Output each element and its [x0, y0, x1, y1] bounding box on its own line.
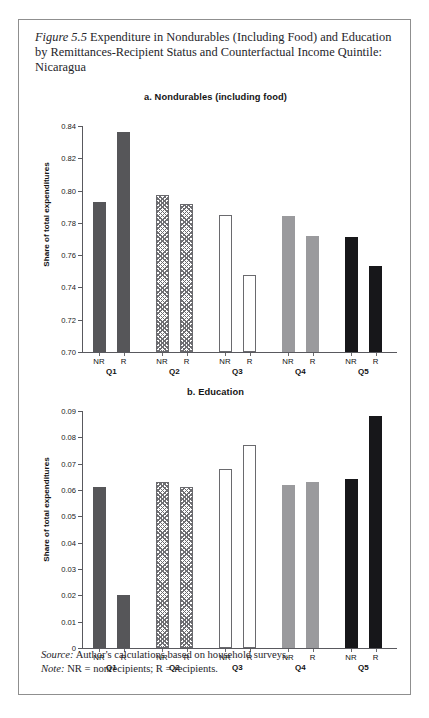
bar-Q4-R-a	[306, 236, 319, 352]
y-axis-tick-label-b: 0.02	[61, 591, 76, 600]
figure-frame: Figure 5.5 Expenditure in Nondurables (I…	[18, 19, 411, 695]
x-axis-tick-a	[124, 353, 125, 356]
source-line: Source: Author's calculations based on h…	[41, 648, 391, 662]
bar-Q2-R-a	[180, 204, 193, 353]
bar-Q1-NR-a	[93, 202, 106, 352]
y-axis-tick-a	[78, 352, 82, 353]
x-axis-tick-a	[351, 353, 352, 356]
note-label: Note:	[41, 663, 65, 674]
y-axis-tick-label-a: 0.76	[61, 251, 76, 260]
source-text: Author's calculations based on household…	[74, 649, 289, 660]
y-axis-tick-a	[78, 223, 82, 224]
y-axis-tick-label-b: 0.03	[61, 565, 76, 574]
note-line: Note: NR = nonrecipients; R = recipients…	[41, 662, 391, 676]
x-axis-tick-a	[288, 353, 289, 356]
group-label-Q4-a: Q4	[295, 367, 306, 376]
x-axis-label-a: NR	[219, 357, 230, 366]
x-axis-label-a: NR	[156, 357, 167, 366]
y-axis-title-a: Share of total expenditures	[42, 150, 51, 280]
y-axis-tick-b	[78, 411, 82, 412]
y-axis-tick-b	[78, 569, 82, 570]
figure-footnotes: Source: Author's calculations based on h…	[41, 648, 391, 676]
y-axis-tick-label-b: 0.08	[61, 433, 76, 442]
x-axis-label-a: R	[184, 357, 190, 366]
y-axis-tick-b	[78, 622, 82, 623]
bar-Q1-R-b	[117, 595, 130, 648]
x-axis-label-a: R	[247, 357, 253, 366]
plot-area-b: 00.010.020.030.040.050.060.070.080.09NRR…	[82, 411, 397, 649]
y-axis-tick-a	[78, 191, 82, 192]
y-axis-tick-a	[78, 287, 82, 288]
chart-panel-nondurables: a. Nondurables (including food) Share of…	[19, 92, 412, 382]
bar-Q4-R-b	[306, 482, 319, 648]
x-axis-label-a: NR	[345, 357, 356, 366]
x-axis-label-a: R	[310, 357, 316, 366]
bar-Q3-R-a	[243, 275, 256, 352]
x-axis-tick-a	[250, 353, 251, 356]
x-axis-label-a: NR	[282, 357, 293, 366]
bar-Q5-NR-b	[345, 479, 358, 648]
x-axis-tick-a	[162, 353, 163, 356]
chart-title-a: a. Nondurables (including food)	[19, 92, 412, 102]
y-axis-tick-label-b: 0.06	[61, 486, 76, 495]
figure-page: Figure 5.5 Expenditure in Nondurables (I…	[0, 0, 429, 718]
y-axis-tick-label-a: 0.84	[61, 122, 76, 131]
x-axis-label-a: R	[121, 357, 127, 366]
bar-Q5-R-b	[369, 416, 382, 648]
figure-caption: Figure 5.5 Expenditure in Nondurables (I…	[35, 30, 397, 76]
bar-Q1-R-a	[117, 132, 130, 352]
y-axis-tick-label-a: 0.82	[61, 154, 76, 163]
x-axis-tick-a	[313, 353, 314, 356]
y-axis-tick-label-b: 0.09	[61, 407, 76, 416]
x-axis-tick-a	[376, 353, 377, 356]
y-axis-tick-b	[78, 464, 82, 465]
y-axis-tick-label-a: 0.78	[61, 218, 76, 227]
y-axis-tick-label-b: 0.05	[61, 512, 76, 521]
bar-Q2-NR-b	[156, 482, 169, 648]
source-label: Source:	[41, 649, 74, 660]
group-label-Q1-a: Q1	[106, 367, 117, 376]
note-text: NR = nonrecipients; R = recipients.	[65, 663, 218, 674]
group-label-Q5-a: Q5	[358, 367, 369, 376]
y-axis-tick-a	[78, 126, 82, 127]
plot-area-a: 0.700.720.740.760.780.800.820.84NRRNRRNR…	[82, 126, 397, 353]
group-label-Q2-a: Q2	[169, 367, 180, 376]
x-axis-line-a	[82, 352, 397, 353]
y-axis-tick-label-a: 0.74	[61, 283, 76, 292]
x-axis-label-a: R	[373, 357, 379, 366]
y-axis-tick-label-a: 0.80	[61, 186, 76, 195]
y-axis-tick-label-a: 0.72	[61, 315, 76, 324]
y-axis-tick-b	[78, 437, 82, 438]
x-axis-label-a: NR	[93, 357, 104, 366]
group-label-Q3-a: Q3	[232, 367, 243, 376]
chart-title-b: b. Education	[19, 387, 412, 397]
bar-Q3-NR-a	[219, 215, 232, 352]
bar-Q5-R-a	[369, 266, 382, 352]
y-axis-title-b: Share of total expenditures	[42, 445, 51, 575]
x-axis-tick-a	[225, 353, 226, 356]
y-axis-tick-a	[78, 158, 82, 159]
figure-number: Figure 5.5	[35, 30, 87, 44]
bar-Q2-R-b	[180, 487, 193, 648]
bar-Q4-NR-a	[282, 216, 295, 352]
x-axis-tick-a	[187, 353, 188, 356]
bar-Q4-NR-b	[282, 485, 295, 648]
x-axis-tick-a	[99, 353, 100, 356]
y-axis-tick-label-a: 0.70	[61, 348, 76, 357]
y-axis-tick-a	[78, 255, 82, 256]
y-axis-tick-b	[78, 490, 82, 491]
y-axis-tick-label-b: 0.01	[61, 617, 76, 626]
y-axis-tick-label-b: 0.07	[61, 459, 76, 468]
bar-Q1-NR-b	[93, 487, 106, 648]
chart-panel-education: b. Education Share of total expenditures…	[19, 387, 412, 672]
y-axis-tick-a	[78, 320, 82, 321]
y-axis-line-a	[82, 126, 83, 353]
y-axis-tick-b	[78, 595, 82, 596]
bar-Q2-NR-a	[156, 195, 169, 352]
bar-Q5-NR-a	[345, 237, 358, 352]
y-axis-tick-b	[78, 516, 82, 517]
bar-Q3-R-b	[243, 445, 256, 648]
bar-Q3-NR-b	[219, 469, 232, 648]
y-axis-tick-label-b: 0.04	[61, 538, 76, 547]
figure-caption-text: Expenditure in Nondurables (Including Fo…	[35, 30, 391, 74]
